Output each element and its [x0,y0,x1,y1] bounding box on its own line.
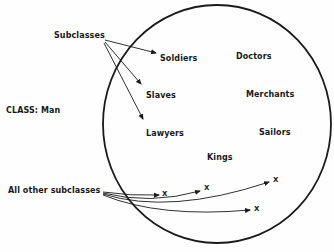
member-doctors: Doctors [236,52,272,61]
member-sailors: Sailors [259,128,291,137]
member-merchants: Merchants [246,90,294,99]
class-label: CLASS: Man [6,106,60,115]
unknown-mark-1: X [162,190,167,198]
member-kings: Kings [207,153,233,162]
class-circle [103,5,331,243]
unknown-mark-4: X [254,205,259,213]
unknown-mark-3: X [273,176,278,184]
member-soldiers: Soldiers [160,54,197,63]
member-slaves: Slaves [146,91,176,100]
unknown-mark-2: X [204,184,209,192]
set-diagram: Subclasses CLASS: Man All other subclass… [0,0,334,252]
subclasses-label: Subclasses [54,31,105,40]
arrow-to-slaves [105,42,141,84]
diagram-lines [0,0,334,252]
other-subclasses-label: All other subclasses [8,186,100,195]
member-lawyers: Lawyers [146,129,184,138]
